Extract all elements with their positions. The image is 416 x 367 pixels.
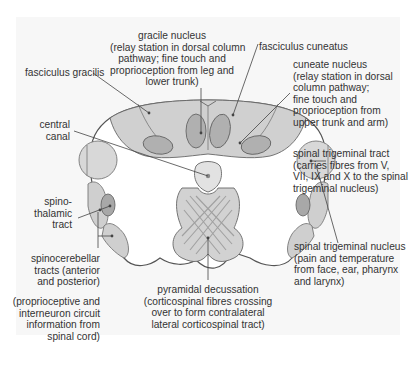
- label-fasciculus-cuneatus: fasciculus cuneatus: [259, 41, 348, 53]
- label-central-canal: central canal: [30, 119, 70, 142]
- label-spinal-trigeminal-tract: spinal trigeminal tract (carries fibres …: [293, 148, 408, 194]
- label-pyramidal-decussation: pyramidal decussation (corticospinal fib…: [132, 284, 284, 330]
- label-fasciculus-gracilis: fasciculus gracilis: [25, 67, 104, 79]
- label-spinocerebellar-tracts: spinocerebellar tracts (anterior and pos…: [20, 253, 100, 288]
- label-spinothalamic-tract: spino- thalamic tract: [30, 196, 72, 231]
- spinothalamic-tract-left: [101, 194, 115, 216]
- spinal-trigeminal-left: [79, 141, 117, 179]
- label-spinal-trigeminal-nucleus: spinal trigeminal nucleus (pain and temp…: [294, 241, 406, 287]
- label-spinocerebellar-note: (proprioceptive and interneuron circuit …: [10, 296, 100, 342]
- spinothalamic-tract-right: [296, 194, 310, 216]
- label-cuneate-nucleus: cuneate nucleus (relay station in dorsal…: [293, 59, 393, 129]
- gracile-nucleus-left: [186, 114, 206, 148]
- label-gracile-nucleus: gracile nucleus (relay station in dorsal…: [110, 30, 234, 88]
